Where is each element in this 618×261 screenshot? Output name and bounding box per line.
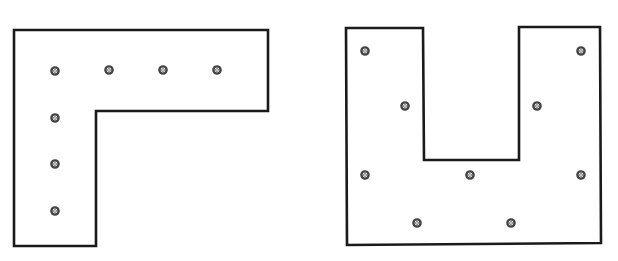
hole-center	[364, 50, 367, 53]
hole-center	[54, 163, 57, 166]
hole-center	[364, 174, 367, 177]
hole-center	[216, 69, 219, 72]
hole-icon	[466, 171, 473, 178]
hole-icon	[51, 207, 58, 214]
hole-icon	[361, 47, 368, 54]
hole-icon	[51, 160, 58, 167]
hole-center	[416, 222, 419, 225]
hole-icon	[51, 114, 58, 121]
diagram-canvas	[0, 0, 618, 261]
hole-center	[162, 69, 165, 72]
hole-center	[108, 69, 111, 72]
hole-center	[54, 70, 57, 73]
u-plate-outline	[346, 27, 601, 245]
hole-center	[510, 222, 513, 225]
hole-icon	[507, 219, 514, 226]
hole-icon	[401, 102, 408, 109]
hole-icon	[51, 67, 58, 74]
hole-icon	[159, 66, 166, 73]
hole-icon	[361, 171, 368, 178]
hole-icon	[413, 219, 420, 226]
hole-icon	[213, 66, 220, 73]
hole-center	[469, 174, 472, 177]
hole-icon	[577, 171, 584, 178]
hole-center	[536, 105, 539, 108]
hole-center	[580, 50, 583, 53]
hole-center	[54, 117, 57, 120]
hole-center	[404, 105, 407, 108]
hole-icon	[577, 47, 584, 54]
l-shaped-plate	[14, 30, 268, 246]
hole-center	[580, 174, 583, 177]
u-shaped-plate	[346, 27, 601, 245]
hole-icon	[105, 66, 112, 73]
hole-center	[54, 210, 57, 213]
hole-icon	[533, 102, 540, 109]
